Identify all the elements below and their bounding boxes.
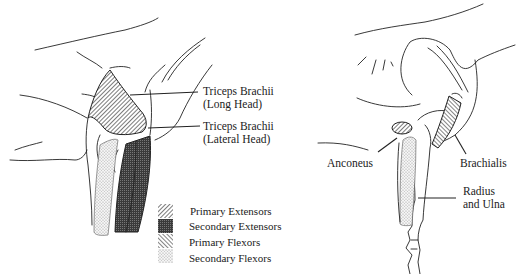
outline-shoulder	[77, 52, 102, 68]
left-forelimb-lateral-view: Triceps Brachii (Long Head) Triceps Brac…	[10, 18, 274, 235]
outline-back-right	[355, 4, 483, 35]
outline-back	[35, 18, 158, 50]
legend-label-primary-extensors: Primary Extensors	[190, 205, 272, 217]
legend-swatch-secondary-flexors	[158, 249, 173, 263]
outline-shoulder-top	[110, 67, 130, 69]
forelimb-muscle-diagram: Triceps Brachii (Long Head) Triceps Brac…	[0, 0, 519, 274]
legend-label-secondary-flexors: Secondary Flexors	[189, 252, 271, 264]
outline-carpals	[411, 240, 418, 249]
outline-scapula	[401, 38, 515, 95]
label-anconeus: Anconeus	[327, 157, 374, 169]
label-triceps-lateral-line1: Triceps Brachii	[203, 120, 274, 133]
outline-chest-right	[357, 98, 420, 107]
legend-swatch-primary-extensors	[158, 204, 173, 218]
outline-ventral-2	[15, 142, 42, 150]
triceps-long-head-muscle	[88, 70, 146, 135]
outline-flexor-edge	[398, 143, 400, 222]
outline-ribs	[358, 57, 393, 74]
label-radius-ulna-line1: Radius	[463, 185, 495, 197]
legend: Primary Extensors Secondary Extensors Pr…	[158, 204, 282, 264]
legend-swatch-primary-flexors	[158, 234, 173, 248]
anconeus-muscle	[392, 122, 412, 134]
outline-ventral	[10, 150, 87, 161]
right-forelimb-medial-view: Anconeus Brachialis Radius and Ulna	[318, 4, 515, 274]
outline-bone-front	[418, 125, 431, 274]
label-radius-ulna-line2: and Ulna	[463, 198, 505, 210]
legend-label-primary-flexors: Primary Flexors	[189, 236, 260, 248]
legend-swatch-secondary-extensors	[158, 219, 173, 233]
leader-anconeus	[378, 138, 397, 152]
outline-scapula-inner-2	[437, 46, 468, 92]
leader-triceps-long	[130, 92, 198, 95]
label-brachialis: Brachialis	[460, 157, 507, 169]
outline-forearm-front	[86, 118, 92, 225]
outline-chest	[20, 95, 87, 118]
outline-neck-3	[168, 45, 200, 80]
leader-brachialis	[455, 135, 466, 154]
outline-neck-1	[145, 65, 165, 92]
label-triceps-long-line2: (Long Head)	[203, 98, 262, 111]
forearm-secondary-extensors	[115, 136, 151, 232]
brachialis-insertion	[452, 93, 462, 98]
legend-label-secondary-extensors: Secondary Extensors	[189, 220, 282, 232]
label-triceps-long-line1: Triceps Brachii	[203, 85, 274, 98]
outline-ventral-right	[318, 143, 368, 150]
forearm-secondary-flexors-right	[400, 137, 416, 226]
label-triceps-lateral-line2: (Lateral Head)	[203, 133, 271, 146]
